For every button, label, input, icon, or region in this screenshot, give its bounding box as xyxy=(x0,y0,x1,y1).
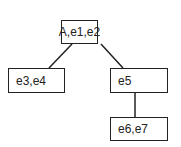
node-right: e5 xyxy=(110,68,168,93)
edge-root-right xyxy=(101,44,123,68)
node-left-label: e3,e4 xyxy=(9,74,46,88)
node-root: A,e1,e2 xyxy=(61,20,98,44)
edge-root-left xyxy=(49,44,72,68)
node-right-child-label: e6,e7 xyxy=(111,122,148,136)
node-right-label: e5 xyxy=(111,74,131,88)
node-root-label: A,e1,e2 xyxy=(59,25,100,39)
node-right-child: e6,e7 xyxy=(110,117,168,141)
node-left: e3,e4 xyxy=(8,68,65,93)
